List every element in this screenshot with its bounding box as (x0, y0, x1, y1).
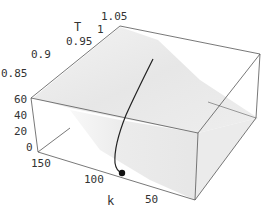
z-tick-60: 60 (14, 93, 27, 106)
t-tick-1-05: 1.05 (101, 10, 128, 23)
z-tick-20: 20 (14, 125, 27, 138)
k-tick-150: 150 (31, 157, 51, 170)
trajectory-end-point (119, 170, 125, 176)
k-tick-100: 100 (84, 173, 104, 186)
t-tick-0-9: 0.9 (31, 48, 51, 61)
box-edge-right-vertical (256, 54, 260, 118)
k-tick-50: 50 (145, 193, 158, 206)
t-tick-0-85: 0.85 (1, 67, 28, 80)
surface-plot-3d: 0.85 0.9 0.95 1 1.05 T 60 40 20 0 150 10… (0, 0, 273, 217)
z-tick-40: 40 (14, 109, 27, 122)
t-axis-label: T (74, 20, 81, 34)
z-tick-0: 0 (26, 141, 33, 154)
box-edge-back-vertical (38, 128, 70, 152)
k-axis-label: k (107, 194, 115, 208)
t-tick-0-95: 0.95 (66, 35, 93, 48)
t-tick-1: 1 (97, 23, 104, 36)
